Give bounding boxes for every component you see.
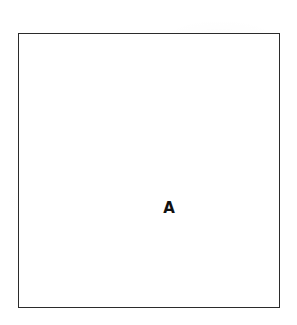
figure-frame-rectangle: A (18, 33, 280, 308)
figure-page: A (0, 0, 297, 325)
panel-label-a: A (162, 199, 176, 217)
